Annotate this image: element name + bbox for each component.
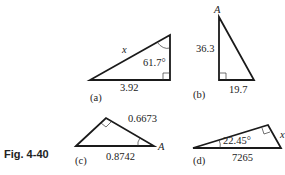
right-angle-mark-c (101, 122, 111, 127)
figure-caption: Fig. 4-40 (4, 148, 49, 160)
label-b-base: 19.7 (229, 84, 247, 95)
triangle-b: A 36.3 19.7 (b) (193, 4, 254, 101)
label-b-height: 36.3 (196, 43, 214, 54)
panel-label-d: (d) (193, 155, 206, 167)
figure-4-40: x 61.7° 3.92 (a) A 36.3 19.7 (b) 0.6673 … (0, 0, 285, 175)
label-a-angle: 61.7° (143, 57, 166, 68)
label-d-angle: 22.45° (223, 135, 251, 146)
label-a-base: 3.92 (120, 82, 138, 93)
right-angle-mark-a (163, 73, 170, 80)
label-d-side: x (279, 129, 285, 140)
angle-arc-a (157, 42, 170, 48)
label-d-base: 7265 (232, 152, 253, 163)
angle-arc-d (219, 140, 220, 148)
angle-arc-c (138, 138, 140, 146)
label-a-hypotenuse: x (121, 44, 127, 55)
triangle-c: 0.6673 0.8742 A (c) (75, 113, 165, 167)
panel-label-c: (c) (75, 155, 87, 167)
panel-label-a: (a) (90, 92, 102, 104)
right-angle-mark-d (262, 128, 270, 134)
right-angle-mark-b (219, 73, 226, 80)
triangle-d: 22.45° x 7265 (d) (193, 125, 285, 167)
label-c-vertex: A (157, 141, 165, 152)
label-b-vertex: A (213, 4, 221, 15)
triangle-a: x 61.7° 3.92 (a) (90, 35, 170, 104)
label-c-base: 0.8742 (106, 151, 135, 162)
label-c-side: 0.6673 (128, 113, 157, 124)
panel-label-b: (b) (193, 89, 206, 101)
